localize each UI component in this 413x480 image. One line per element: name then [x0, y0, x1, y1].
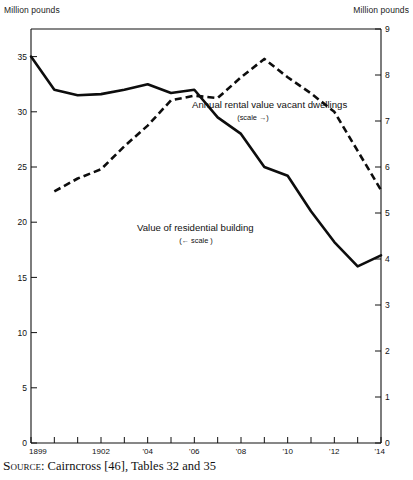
right-tick-label: 9 [385, 24, 390, 34]
x-tick-label: '06 [189, 447, 200, 455]
source-caption: Source: Cairncross [46], Tables 32 and 3… [3, 458, 216, 474]
right-tick-label: 6 [385, 162, 390, 172]
left-tick-label: 20 [18, 217, 28, 227]
source-body: : Cairncross [46], Tables 32 and 35 [41, 459, 216, 473]
right-tick-label: 1 [385, 392, 390, 402]
x-tick-label: 1899 [29, 447, 47, 455]
x-tick-label: '14 [375, 447, 386, 455]
series-line-residential-building [31, 57, 381, 267]
left-axis-ticks: 05101520253035 [18, 52, 37, 448]
right-axis-ticks: 0123456789 [375, 24, 390, 448]
right-tick-label: 8 [385, 70, 390, 80]
annotation-residential-building: Value of residential building [137, 222, 254, 233]
left-tick-label: 10 [18, 328, 28, 338]
left-tick-label: 35 [18, 52, 28, 62]
chart-plot: 05101520253035 0123456789 18991902'04'06… [0, 0, 413, 455]
x-tick-label: '12 [329, 447, 340, 455]
right-tick-label: 7 [385, 116, 390, 126]
chart-series-layer [31, 57, 381, 267]
series-line-rental-value [54, 59, 381, 191]
right-tick-label: 4 [385, 254, 390, 264]
right-tick-label: 5 [385, 208, 390, 218]
left-tick-label: 30 [18, 107, 28, 117]
annotation-rental-value-scale: (scale →) [237, 113, 269, 122]
x-tick-label: '08 [236, 447, 247, 455]
left-tick-label: 25 [18, 162, 28, 172]
x-tick-label: '10 [282, 447, 293, 455]
left-tick-label: 5 [22, 383, 27, 393]
x-tick-label: 1902 [92, 447, 110, 455]
right-tick-label: 2 [385, 346, 390, 356]
left-tick-label: 0 [22, 438, 27, 448]
x-axis-ticks: 18991902'04'06'08'10'12'14 [29, 437, 386, 455]
right-tick-label: 3 [385, 300, 390, 310]
chart-annotations: Annual rental value vacant dwellings (sc… [137, 99, 347, 245]
x-tick-label: '04 [142, 447, 153, 455]
annotation-residential-building-scale: (← scale ) [179, 236, 213, 245]
annotation-rental-value: Annual rental value vacant dwellings [192, 99, 347, 110]
chart-figure: Million pounds Million pounds 0510152025… [0, 0, 413, 480]
source-label: Source [3, 458, 41, 473]
left-tick-label: 15 [18, 273, 28, 283]
right-tick-label: 0 [385, 438, 390, 448]
